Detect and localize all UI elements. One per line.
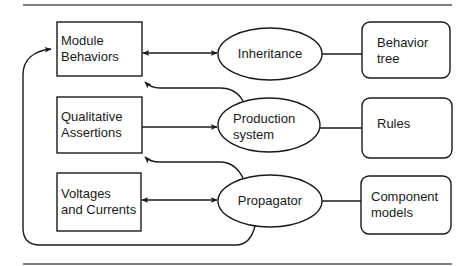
component-models-label: Component models <box>371 189 438 221</box>
behavior-tree-label: Behavior tree <box>377 35 428 67</box>
voltages-and-currents-label: Voltages and Currents <box>61 186 136 218</box>
propagator-label: Propagator <box>228 193 312 209</box>
module-behaviors-label: Module Behaviors <box>61 33 119 65</box>
edge-propagator-to-assertions <box>145 157 243 178</box>
production-system-label: Production system <box>233 111 305 143</box>
rules-label: Rules <box>377 116 410 132</box>
inheritance-label: Inheritance <box>228 46 312 62</box>
qualitative-assertions-label: Qualitative Assertions <box>61 109 122 141</box>
edge-propagator-loop-to-module <box>23 49 255 245</box>
edge-production-to-module <box>145 82 243 101</box>
